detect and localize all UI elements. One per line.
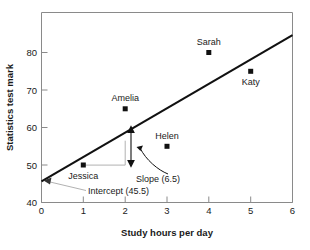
y-tick-label-50: 50 bbox=[26, 160, 37, 171]
data-point-label-katy: Katy bbox=[242, 77, 261, 87]
data-point-label-jessica: Jessica bbox=[68, 171, 98, 181]
x-axis-title: Study hours per day bbox=[121, 227, 214, 238]
intercept-annotation-label: Intercept (45.5) bbox=[88, 186, 149, 196]
data-point-helen[interactable] bbox=[165, 144, 170, 149]
data-point-jessica[interactable] bbox=[81, 163, 86, 168]
x-axis-ticks bbox=[42, 197, 293, 203]
data-point-amelia[interactable] bbox=[123, 106, 128, 111]
chart-canvas: 80 70 60 50 40 0 1 2 3 4 5 6 Study hou bbox=[0, 0, 310, 250]
x-tick-label-0: 0 bbox=[39, 205, 44, 216]
slope-annotation-label: Slope (6.5) bbox=[136, 174, 180, 184]
x-tick-label-5: 5 bbox=[248, 205, 253, 216]
scatter-chart: 80 70 60 50 40 0 1 2 3 4 5 6 Study hou bbox=[0, 0, 310, 250]
data-point-label-sarah: Sarah bbox=[197, 37, 221, 47]
regression-line bbox=[42, 35, 293, 181]
x-tick-label-3: 3 bbox=[164, 205, 169, 216]
x-tick-label-4: 4 bbox=[206, 205, 211, 216]
x-tick-labels: 0 1 2 3 4 5 6 bbox=[39, 205, 295, 216]
y-tick-label-60: 60 bbox=[26, 122, 37, 133]
slope-arrow bbox=[128, 127, 134, 167]
y-tick-labels: 80 70 60 50 40 bbox=[26, 47, 37, 208]
data-point-label-helen: Helen bbox=[155, 131, 179, 141]
data-point-sarah[interactable] bbox=[206, 50, 211, 55]
y-tick-label-70: 70 bbox=[26, 85, 37, 96]
x-tick-label-1: 1 bbox=[81, 205, 86, 216]
y-axis-title: Statistics test mark bbox=[4, 63, 15, 151]
data-point-katy[interactable] bbox=[248, 69, 253, 74]
slope-leader-line bbox=[137, 146, 169, 175]
x-tick-label-2: 2 bbox=[123, 205, 128, 216]
data-point-label-amelia: Amelia bbox=[111, 93, 139, 103]
x-tick-label-6: 6 bbox=[290, 205, 295, 216]
y-tick-label-40: 40 bbox=[26, 197, 37, 208]
y-tick-label-80: 80 bbox=[26, 47, 37, 58]
